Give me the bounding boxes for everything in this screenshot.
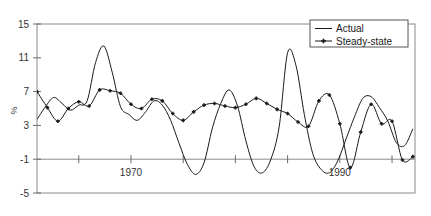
data-point-marker — [338, 122, 342, 126]
legend-label-actual: Actual — [336, 23, 364, 34]
data-point-marker — [275, 108, 279, 112]
data-point-marker — [202, 103, 206, 107]
data-point-marker — [77, 100, 81, 104]
data-point-marker — [359, 130, 363, 134]
chart-legend: ActualSteady-state — [310, 20, 408, 47]
legend-label-steady-state: Steady-state — [336, 36, 393, 47]
data-point-marker — [108, 89, 112, 93]
y-tick-label: 11 — [19, 52, 30, 63]
line-chart: -5-137111519701990% ActualSteady-state — [0, 0, 431, 216]
y-tick-label: 15 — [18, 19, 30, 30]
data-point-marker — [254, 97, 258, 101]
chart-figure: -5-137111519701990% ActualSteady-state — [0, 0, 431, 216]
data-series — [35, 46, 415, 175]
data-point-marker — [181, 119, 185, 123]
y-tick-label: -1 — [20, 154, 29, 165]
y-axis-title: % — [9, 106, 19, 114]
y-tick-label: 7 — [23, 86, 29, 97]
data-point-marker — [234, 106, 238, 110]
x-tick-label: 1970 — [120, 167, 143, 178]
axis-tick-labels: -5-137111519701990% — [9, 19, 351, 199]
data-point-marker — [223, 104, 227, 108]
data-point-marker — [213, 102, 217, 106]
data-point-marker — [140, 107, 144, 111]
x-tick-label: 1990 — [329, 167, 352, 178]
y-tick-label: -5 — [20, 188, 29, 199]
series-actual — [37, 46, 413, 175]
y-tick-label: 3 — [23, 120, 29, 131]
data-point-marker — [56, 119, 60, 123]
series-steady-state — [35, 88, 415, 169]
